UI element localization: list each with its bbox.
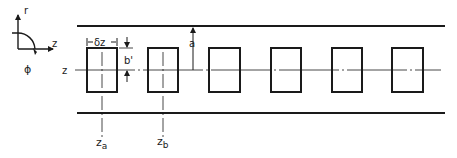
z-axis-label: z	[52, 38, 57, 49]
phi-arc	[12, 33, 35, 49]
b-prime-dimension: b'	[119, 37, 133, 82]
z-a-label: za	[96, 136, 107, 151]
a-label: a	[189, 38, 195, 49]
coordinate-system-icon: r z ϕ	[12, 5, 57, 76]
a-dimension: a	[189, 28, 195, 70]
z-b-label: zb	[157, 135, 169, 150]
r-axis-label: r	[24, 5, 29, 16]
b-prime-label: b'	[124, 55, 133, 66]
phi-label: ϕ	[24, 63, 31, 76]
slotted-waveguide-diagram: r z ϕ z δz	[0, 0, 457, 158]
axis-z-label: z	[62, 65, 67, 76]
delta-z-label: δz	[94, 37, 105, 48]
delta-z-dimension: δz	[87, 37, 117, 48]
